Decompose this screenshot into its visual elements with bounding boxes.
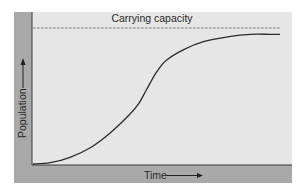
y-axis-label: Population — [16, 88, 28, 138]
x-axis-label: Time — [144, 169, 167, 181]
carrying-capacity-label: Carrying capacity — [111, 12, 193, 24]
logistic-growth-chart: Carrying capacity Time Population — [0, 0, 305, 196]
plot-area — [32, 12, 292, 165]
